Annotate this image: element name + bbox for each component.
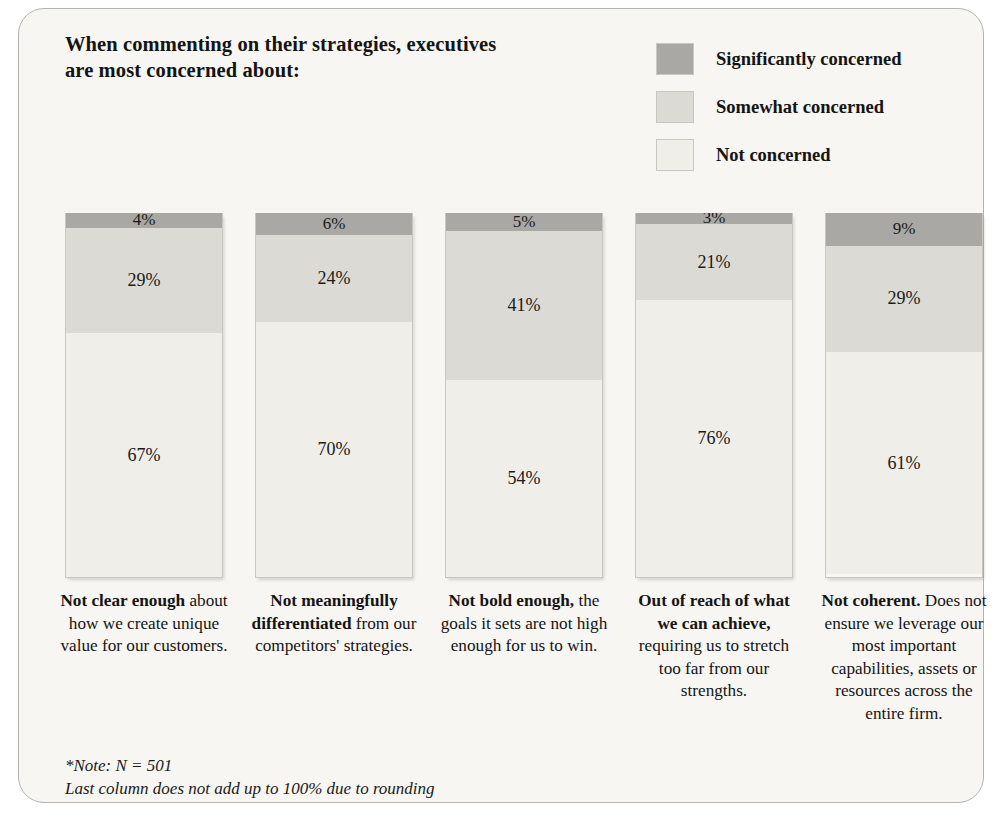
stacked-bar: 4%29%67% — [65, 213, 223, 578]
bar-segment-value: 76% — [698, 428, 731, 449]
stacked-bar: 3%21%76% — [635, 213, 793, 578]
chart-panel: When commenting on their strategies, exe… — [18, 8, 984, 803]
bar-segment-value: 4% — [133, 213, 156, 228]
bar-segment-value: 21% — [698, 252, 731, 273]
bar-column-label-heading: Not bold enough, — [449, 591, 575, 610]
bar-column: 4%29%67%Not clear enough about how we cr… — [65, 213, 223, 658]
bar-segment-not-concerned: 70% — [256, 322, 412, 577]
bar-segment-value: 24% — [318, 268, 351, 289]
bar-column: 6%24%70%Not meaningfully differentiated … — [255, 213, 413, 658]
bar-segment-value: 54% — [508, 468, 541, 489]
bar-column-label-detail: Does not ensure we leverage our most imp… — [825, 591, 987, 723]
bar-segment-significantly-concerned: 3% — [636, 213, 792, 224]
bar-segment-somewhat-concerned: 21% — [636, 224, 792, 300]
bar-segment-not-concerned: 61% — [826, 352, 982, 575]
bar-column-label: Not coherent. Does not ensure we leverag… — [818, 590, 990, 725]
bar-column-label: Not meaningfully differentiated from our… — [248, 590, 420, 658]
footnote-line-2: Last column does not add up to 100% due … — [65, 777, 705, 800]
bar-column-label-detail: requiring us to stretch too far from our… — [639, 636, 789, 700]
bar-column-label-heading: Not coherent. — [822, 591, 921, 610]
footnote: *Note: N = 501 Last column does not add … — [65, 754, 705, 800]
bar-segment-somewhat-concerned: 29% — [66, 228, 222, 334]
bar-segment-value: 41% — [508, 295, 541, 316]
bar-segment-value: 3% — [703, 213, 726, 224]
bar-segment-value: 29% — [888, 288, 921, 309]
bar-column: 5%41%54%Not bold enough, the goals it se… — [445, 213, 603, 658]
bar-segment-somewhat-concerned: 24% — [256, 235, 412, 322]
bar-segment-significantly-concerned: 6% — [256, 213, 412, 235]
bar-segment-value: 5% — [513, 213, 536, 231]
bar-column-label: Out of reach of what we can achieve, req… — [628, 590, 800, 703]
bar-column-label: Not bold enough, the goals it sets are n… — [438, 590, 610, 658]
bar-column: 9%29%61%Not coherent. Does not ensure we… — [825, 213, 983, 725]
bar-segment-value: 6% — [323, 214, 346, 234]
bar-segment-value: 61% — [888, 453, 921, 474]
footnote-line-1: *Note: N = 501 — [65, 754, 705, 777]
bar-segment-not-concerned: 54% — [446, 380, 602, 577]
bar-segment-significantly-concerned: 5% — [446, 213, 602, 231]
bar-segment-somewhat-concerned: 41% — [446, 231, 602, 380]
bar-column: 3%21%76%Out of reach of what we can achi… — [635, 213, 793, 703]
bar-column-label-heading: Out of reach of what we can achieve, — [638, 591, 790, 633]
bar-segment-value: 29% — [128, 270, 161, 291]
stacked-bar: 6%24%70% — [255, 213, 413, 578]
bar-segment-somewhat-concerned: 29% — [826, 246, 982, 352]
bar-segment-not-concerned: 67% — [66, 333, 222, 577]
bar-column-label-heading: Not clear enough — [60, 591, 185, 610]
stacked-bar: 5%41%54% — [445, 213, 603, 578]
bar-segment-significantly-concerned: 4% — [66, 213, 222, 228]
bar-segment-significantly-concerned: 9% — [826, 213, 982, 246]
bar-segment-not-concerned: 76% — [636, 300, 792, 577]
stacked-bar: 9%29%61% — [825, 213, 983, 578]
bar-segment-value: 9% — [893, 219, 916, 239]
bar-column-label: Not clear enough about how we create uni… — [58, 590, 230, 658]
bar-segment-value: 70% — [318, 439, 351, 460]
bar-segment-value: 67% — [128, 445, 161, 466]
stacked-bar-chart: 4%29%67%Not clear enough about how we cr… — [19, 9, 985, 804]
